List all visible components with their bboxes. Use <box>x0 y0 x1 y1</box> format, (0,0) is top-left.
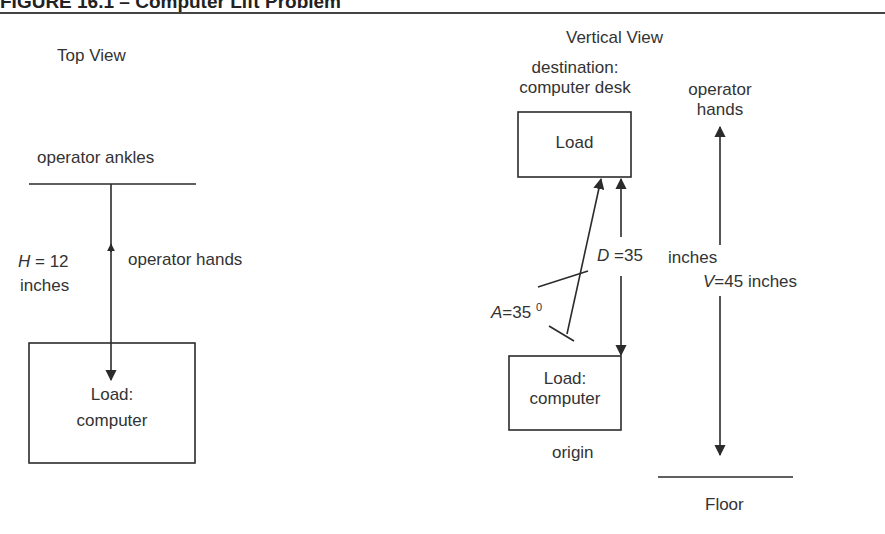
h-unit-label: inches <box>20 276 69 296</box>
hands-line1: operator <box>680 80 760 100</box>
a-variable: A <box>491 303 502 322</box>
vertical-view-heading: Vertical View <box>566 28 663 48</box>
operator-hands-vertical-label: operator hands <box>680 80 760 120</box>
top-load-label: Load: computer <box>29 385 195 431</box>
top-load-line1: Load: <box>29 385 195 405</box>
origin-label: origin <box>552 443 594 463</box>
v-dimension-label: V=45 inches <box>703 272 797 292</box>
h-value: = 12 <box>30 252 68 271</box>
origin-load-line2: computer <box>509 389 621 409</box>
origin-load-line1: Load: <box>509 369 621 389</box>
h-dimension-label: H = 12 <box>18 252 69 272</box>
dest-load-label: Load <box>518 133 631 153</box>
top-load-line2: computer <box>29 411 195 431</box>
d-value: =35 <box>609 246 643 265</box>
diagonal-path <box>567 179 601 334</box>
angle-crossbar <box>538 271 588 287</box>
top-view-heading: Top View <box>57 46 126 66</box>
destination-line1: destination: <box>505 58 645 78</box>
h-variable: H <box>18 252 30 271</box>
v-variable: V <box>703 272 714 291</box>
floor-label: Floor <box>705 495 744 515</box>
v-value: =45 inches <box>714 272 797 291</box>
degree-symbol: 0 <box>536 301 542 313</box>
d-dimension-label: D =35 <box>597 246 643 266</box>
a-value: =35 <box>502 303 536 322</box>
operator-hands-label: operator hands <box>128 250 242 270</box>
d-unit-label: inches <box>668 248 717 268</box>
destination-label: destination: computer desk <box>505 58 645 98</box>
diagonal-base-tick <box>549 326 574 341</box>
destination-line2: computer desk <box>505 78 645 98</box>
hands-line2: hands <box>680 100 760 120</box>
a-angle-label: A=35 0 <box>491 301 542 323</box>
d-variable: D <box>597 246 609 265</box>
origin-load-label: Load: computer <box>509 369 621 409</box>
ankles-label: operator ankles <box>37 148 154 168</box>
